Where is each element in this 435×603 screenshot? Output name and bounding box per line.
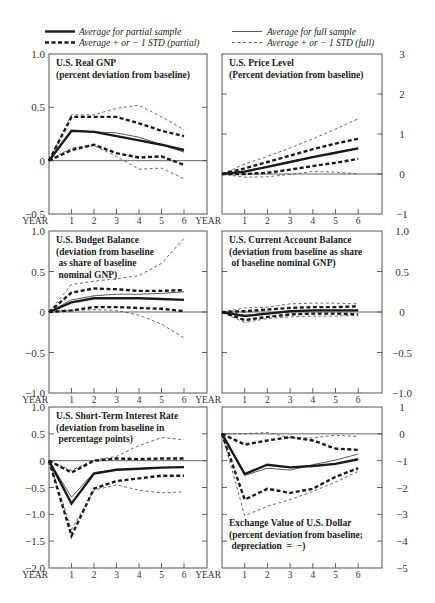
series-average-for-full-sample: [49, 461, 184, 498]
y-tick-label: −1.5: [25, 535, 45, 547]
x-axis-label: YEAR: [195, 395, 222, 405]
panel-u-s-real-gnp: 1.00.50−0.5123456YEARU.S. Real GNP(perce…: [22, 48, 207, 226]
y-tick-label: −1: [396, 455, 408, 467]
panel-title: U.S. Real GNP: [56, 58, 116, 68]
x-tick-label: 3: [114, 216, 119, 226]
x-tick-label: 2: [92, 216, 97, 226]
legend-label-avg-partial: Average for partial sample: [78, 27, 181, 37]
x-tick-label: 3: [288, 216, 293, 226]
y-tick-label: −2: [396, 482, 408, 494]
panel-subtitle: (Percent deviation from baseline): [229, 70, 363, 81]
y-tick-label: 0.5: [31, 266, 45, 278]
x-tick-label: 2: [265, 395, 270, 405]
x-tick-label: 6: [182, 395, 187, 405]
y-tick-label: 0: [40, 455, 46, 467]
y-tick-label: −3: [396, 508, 408, 520]
legend-label-avg-full: Average for full sample: [266, 27, 356, 37]
y-tick-label: −1.0: [392, 387, 412, 399]
y-tick-label: 0.5: [31, 101, 45, 113]
panel-subtitle: (percent deviation from baseline;: [229, 530, 363, 541]
x-tick-label: 1: [69, 395, 74, 405]
x-tick-label: 5: [333, 395, 338, 405]
x-tick-label: 2: [265, 570, 270, 580]
y-tick-label: 0: [40, 306, 46, 318]
x-tick-label: 3: [288, 570, 293, 580]
x-tick-label: 2: [265, 216, 270, 226]
panel-u-s-budget-balance: 1.00.50−0.5−1.0123456YEARU.S. Budget Bal…: [22, 225, 207, 405]
x-tick-label: 5: [159, 216, 164, 226]
y-tick-label: 0.5: [395, 266, 409, 278]
x-tick-label: 3: [114, 570, 119, 580]
y-tick-label: 3: [399, 48, 405, 60]
panel-title: U.S. Budget Balance: [56, 235, 139, 245]
panel-subtitle: nominal GNP): [56, 270, 117, 281]
series-average-1-std-partial-: [49, 307, 184, 312]
y-tick-label: −4: [396, 535, 408, 547]
x-tick-label: 6: [356, 570, 361, 580]
y-tick-label: 2: [399, 88, 405, 100]
y-tick-label: 0: [40, 155, 46, 167]
x-tick-label: 5: [333, 570, 338, 580]
panel-u-s-short-term-interest-rate: 1.00.50−0.5−1.0−1.5−2.0123456YEARU.S. Sh…: [22, 401, 207, 580]
y-tick-label: 1.0: [31, 225, 45, 237]
y-tick-label: 0: [399, 306, 405, 318]
x-axis-label: YEAR: [195, 216, 222, 226]
x-axis-label: YEAR: [195, 570, 222, 580]
panel-title: Exchange Value of U.S. Dollar: [229, 518, 352, 528]
series-average-for-partial-sample: [49, 461, 184, 504]
y-tick-label: 1.0: [395, 225, 409, 237]
x-axis-label: YEAR: [22, 570, 49, 580]
panel-subtitle: as share of baseline: [56, 258, 137, 268]
x-tick-label: 5: [159, 395, 164, 405]
panel-subtitle: percentage points): [56, 434, 133, 445]
y-tick-label: −0.5: [25, 482, 45, 494]
series-average-1-std-full-: [222, 119, 358, 174]
x-tick-label: 1: [69, 216, 74, 226]
x-tick-label: 4: [137, 570, 142, 580]
legend-label-std-full: Average + or − 1 STD (full): [266, 38, 374, 49]
y-tick-label: 0: [399, 168, 405, 180]
x-tick-label: 4: [310, 216, 315, 226]
x-tick-label: 2: [92, 570, 97, 580]
x-tick-label: 4: [137, 216, 142, 226]
x-tick-label: 3: [288, 395, 293, 405]
y-tick-label: −1.0: [25, 508, 45, 520]
x-tick-label: 5: [333, 216, 338, 226]
x-tick-label: 4: [310, 395, 315, 405]
x-tick-label: 4: [310, 570, 315, 580]
series-average-1-std-partial-: [222, 434, 358, 450]
x-tick-label: 4: [137, 395, 142, 405]
y-tick-label: 0.5: [31, 428, 45, 440]
series-average-for-partial-sample: [222, 434, 358, 474]
x-tick-label: 6: [182, 570, 187, 580]
x-tick-label: 2: [92, 395, 97, 405]
y-tick-label: −0.5: [392, 347, 412, 359]
y-tick-label: 1.0: [31, 48, 45, 60]
panel-subtitle: (deviation from baseline: [56, 247, 154, 258]
panel-subtitle: (percent deviation from baseline): [56, 70, 190, 81]
y-tick-label: −0.5: [25, 347, 45, 359]
panel-subtitle: (deviation from baseline in: [56, 423, 165, 434]
panel-subtitle: (deviation from baseline as share: [229, 247, 362, 258]
x-tick-label: 6: [356, 395, 361, 405]
legend-label-std-partial: Average + or − 1 STD (partial): [78, 38, 199, 49]
x-tick-label: 3: [114, 395, 119, 405]
panel-subtitle: depreciation = −): [229, 541, 305, 552]
x-tick-label: 1: [242, 570, 247, 580]
y-tick-label: 0: [399, 428, 405, 440]
x-tick-label: 1: [69, 570, 74, 580]
series-average-1-std-full-: [49, 310, 184, 338]
x-tick-label: 6: [182, 216, 187, 226]
x-tick-label: 5: [159, 570, 164, 580]
panel-title: U.S. Price Level: [229, 58, 294, 68]
panel-subtitle: of baseline nominal GNP): [229, 258, 336, 269]
x-tick-label: 1: [242, 395, 247, 405]
y-tick-label: 1: [399, 401, 405, 413]
panel-u-s-current-account-balance: 1.00.50−0.5−1.0123456YEARU.S. Current Ac…: [195, 225, 412, 405]
y-tick-label: 1: [399, 128, 405, 140]
legend: Average for partial sample Average + or …: [45, 27, 374, 49]
chart-panels: 1.00.50−0.5123456YEARU.S. Real GNP(perce…: [22, 48, 412, 580]
x-tick-label: 6: [356, 216, 361, 226]
series-average-1-std-partial-: [49, 145, 184, 165]
y-tick-label: −1: [396, 208, 408, 220]
